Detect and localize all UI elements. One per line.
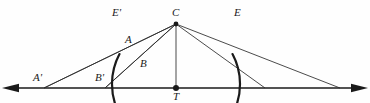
label-E: E [234,7,241,18]
geometry-figure: E' C E A B A' B' T [0,0,370,103]
chord-A-prime-to-A-upper [44,24,176,88]
baseline-group [2,84,368,92]
ray-C-to-right-inner [176,24,265,88]
label-A: A [125,34,132,45]
label-B-prime: B' [95,72,104,83]
geometry-canvas [0,0,370,103]
label-A-prime: A' [33,72,42,83]
arrow-right-icon [351,84,368,92]
rays-group [44,24,340,88]
arrow-left-icon [2,84,19,92]
center-point-C [174,22,179,27]
label-C: C [172,7,179,18]
ray-C-to-right-outer [176,24,340,88]
label-E-prime: E' [112,7,121,18]
label-T: T [173,91,179,102]
label-B: B [140,58,147,69]
chords-group [44,24,176,88]
chord-B-prime-upper [105,24,176,88]
